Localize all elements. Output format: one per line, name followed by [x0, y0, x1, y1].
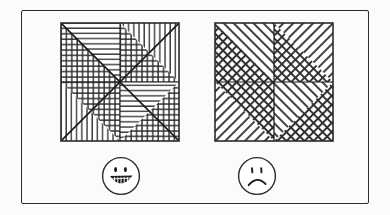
figure-canvas — [0, 0, 390, 215]
left-square-svg — [60, 22, 180, 142]
right-texture-square — [214, 22, 334, 142]
left-texture-square — [60, 22, 180, 142]
left-panel — [0, 0, 195, 215]
sad-face-outline — [239, 158, 276, 195]
sad-face-svg — [236, 155, 278, 197]
right-panel — [195, 0, 390, 215]
happy-face — [100, 155, 142, 197]
happy-face-svg — [100, 155, 142, 197]
happy-eye-right-icon — [124, 167, 127, 172]
right-square-svg — [214, 22, 334, 142]
sad-face — [236, 155, 278, 197]
happy-eye-left-icon — [114, 167, 117, 172]
